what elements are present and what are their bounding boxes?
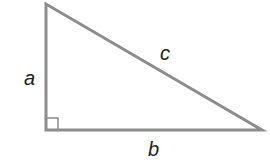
side-c-label: c xyxy=(160,42,170,64)
side-a-label: a xyxy=(24,67,35,89)
triangle-shape xyxy=(46,4,262,130)
right-angle-marker xyxy=(46,118,58,130)
right-triangle-diagram: a c b xyxy=(0,0,270,163)
side-b-label: b xyxy=(148,138,159,160)
